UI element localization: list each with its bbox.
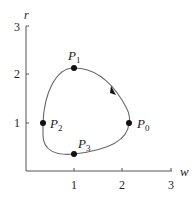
point-p1 bbox=[71, 65, 77, 71]
point-p0 bbox=[126, 120, 132, 126]
phase-portrait: 1 2 3 1 2 3 w r P0 P1 P2 P3 bbox=[0, 0, 194, 200]
y-axis-label: r bbox=[24, 8, 29, 22]
label-p0: P0 bbox=[136, 116, 150, 133]
y-tick-label-2: 2 bbox=[14, 67, 20, 81]
point-p2 bbox=[40, 120, 46, 126]
x-tick-label-3: 3 bbox=[168, 178, 174, 192]
label-p3: P3 bbox=[77, 136, 91, 153]
point-p3 bbox=[71, 151, 77, 157]
orbit-curve bbox=[43, 68, 130, 154]
y-tick-label-3: 3 bbox=[14, 20, 20, 34]
y-tick-label-1: 1 bbox=[14, 116, 20, 130]
label-p1: P1 bbox=[67, 48, 80, 65]
x-tick-label-2: 2 bbox=[119, 178, 125, 192]
label-p2: P2 bbox=[49, 116, 62, 133]
x-tick-label-1: 1 bbox=[71, 178, 77, 192]
x-axis-label: w bbox=[180, 164, 189, 179]
